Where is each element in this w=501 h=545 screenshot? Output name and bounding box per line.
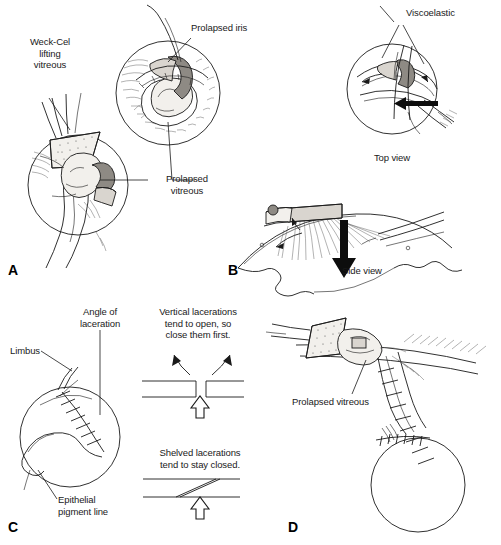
panel-letter-d: D bbox=[288, 519, 298, 535]
label-side-view: Side view bbox=[325, 265, 399, 277]
panel-a-main-globe bbox=[28, 93, 128, 268]
panel-letter-c: C bbox=[8, 519, 18, 535]
leader-prolapsed-vitreous-d bbox=[352, 360, 366, 394]
panel-d-globe bbox=[371, 438, 465, 532]
label-viscoelastic: Viscoelastic bbox=[406, 7, 496, 19]
label-prolapsed-iris: Prolapsed iris bbox=[191, 22, 279, 34]
label-epithelial-pigment-line: Epithelial pigment line bbox=[58, 494, 140, 517]
label-prolapsed-vitreous: Prolapsed vitreous bbox=[150, 173, 224, 196]
panel-b-top-view bbox=[347, 44, 457, 134]
label-shelved-lacerations-note: Shelved lacerations tend to stay closed. bbox=[140, 447, 260, 470]
arrow-up-vertical bbox=[191, 396, 209, 418]
leader-viscoelastic-3 bbox=[380, 6, 394, 22]
label-top-view: Top view bbox=[355, 152, 429, 164]
panel-b-artwork bbox=[238, 6, 462, 296]
panel-letter-b: B bbox=[228, 262, 238, 278]
label-prolapsed-vitreous-d: Prolapsed vitreous bbox=[292, 396, 402, 408]
arrow-up-shelved bbox=[191, 497, 209, 519]
panel-d-artwork bbox=[266, 318, 486, 532]
leader-weck-cel bbox=[49, 98, 70, 130]
figure-container: Weck-Cel lifting vitreous Prolapsed iris… bbox=[0, 0, 501, 545]
leader-viscoelastic-2 bbox=[403, 25, 424, 64]
leader-prolapsed-iris bbox=[168, 38, 191, 62]
arrow-left-top-view bbox=[394, 97, 438, 110]
label-limbus: Limbus bbox=[0, 345, 40, 357]
panel-letter-a: A bbox=[8, 262, 18, 278]
leader-limbus bbox=[41, 351, 72, 371]
label-vertical-lacerations-note: Vertical lacerations tend to open, so cl… bbox=[140, 306, 256, 341]
leader-epithelial-pigment-line bbox=[38, 470, 57, 499]
panel-c-shelved-diagram bbox=[143, 479, 240, 519]
label-angle-of-laceration: Angle of laceration bbox=[62, 306, 138, 329]
label-weck-cel-lifting-vitreous: Weck-Cel lifting vitreous bbox=[8, 36, 92, 71]
leader-prolapsed-vitreous-inset bbox=[168, 122, 195, 180]
leader-viscoelastic-1 bbox=[382, 25, 399, 58]
panel-c-globe bbox=[20, 367, 120, 490]
panel-b-side-view bbox=[238, 204, 462, 296]
panel-c-vertical-diagram bbox=[142, 355, 244, 418]
panel-c-artwork bbox=[20, 330, 244, 519]
